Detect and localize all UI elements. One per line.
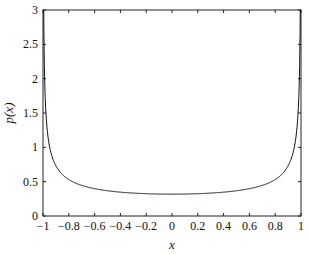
y-tick-label: 2.5 (23, 37, 38, 51)
plot-area: −1−0.8−0.6−0.4−0.200.20.40.60.8100.511.5… (0, 0, 309, 254)
x-tick-label: −0.8 (58, 219, 80, 233)
y-tick-label: 2 (32, 72, 38, 86)
x-tick-label: 0.6 (242, 219, 257, 233)
x-tick-label: 0.8 (268, 219, 283, 233)
x-axis-label: x (168, 237, 175, 252)
x-tick-label: 0 (169, 219, 175, 233)
y-axis-label: p(x) (1, 103, 16, 125)
x-tick-label: −0.2 (135, 219, 157, 233)
y-tick-label: 1 (32, 140, 38, 154)
y-tick-label: 3 (32, 3, 38, 17)
chart: −1−0.8−0.6−0.4−0.200.20.40.60.8100.511.5… (0, 0, 309, 254)
y-tick-label: 0 (32, 209, 38, 223)
x-tick-label: −1 (37, 219, 50, 233)
y-tick-label: 0.5 (23, 175, 38, 189)
y-tick-label: 1.5 (23, 106, 38, 120)
x-tick-label: 0.4 (216, 219, 231, 233)
series-line (43, 0, 301, 194)
x-tick-label: 0.2 (190, 219, 205, 233)
x-tick-label: −0.4 (110, 219, 132, 233)
x-tick-label: −0.6 (84, 219, 106, 233)
x-tick-label: 1 (298, 219, 304, 233)
